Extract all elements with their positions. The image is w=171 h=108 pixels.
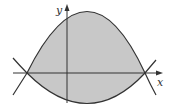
shaded-region (27, 12, 145, 104)
y-axis-label: y (55, 4, 63, 17)
x-axis-arrow-icon (156, 71, 163, 76)
plot-svg: y x (0, 0, 171, 108)
y-axis-arrow-icon (65, 4, 70, 11)
diagram: y x (0, 0, 171, 108)
x-axis-label: x (157, 76, 164, 89)
